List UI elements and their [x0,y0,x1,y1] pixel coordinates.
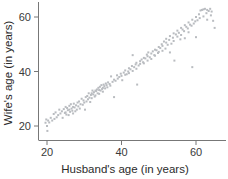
data-point [178,32,180,34]
data-point [73,103,75,105]
data-point [50,117,52,119]
data-point [65,111,67,113]
x-tick-label-60: 60 [190,146,202,158]
data-point [195,16,197,18]
data-point [214,27,216,29]
data-point [88,97,90,99]
data-point [170,43,172,45]
data-point [191,66,193,68]
x-axis-title: Husband's age (in years) [61,163,189,175]
data-point [61,110,63,112]
data-point [115,80,117,82]
data-point [172,37,174,39]
data-point [120,73,122,75]
data-point [147,60,149,62]
data-point [83,99,85,101]
data-point [164,48,166,50]
data-point [112,81,114,83]
data-point [165,38,167,40]
data-point [94,94,96,96]
data-point [161,50,163,52]
data-point [71,110,73,112]
data-point [116,74,118,76]
data-point [83,102,85,104]
data-point [195,36,197,38]
data-point [46,125,48,127]
data-point [176,36,178,38]
data-point [58,109,60,111]
data-point [77,105,79,107]
data-point [143,62,145,64]
data-point [187,27,189,29]
data-point [156,49,158,51]
data-point [136,84,138,86]
data-point [86,95,88,97]
data-point [55,111,57,113]
data-point [202,15,204,17]
data-point [161,45,163,47]
data-point [92,93,94,95]
data-point [169,51,171,53]
data-point [118,76,120,78]
data-point [80,103,82,105]
data-point [135,62,137,64]
data-point [188,21,190,23]
data-point [75,104,77,106]
data-point [141,59,143,61]
data-point [123,72,125,74]
data-point [144,57,146,59]
data-point [205,12,207,14]
data-point [85,100,87,102]
data-point [199,17,201,19]
data-point [69,111,71,113]
data-point [103,85,105,87]
data-point [173,32,175,34]
data-point [72,112,74,114]
data-point [68,114,70,116]
data-point [129,68,131,70]
data-point [183,30,185,32]
data-point [66,107,68,109]
data-point [191,25,193,27]
data-point [106,86,108,88]
data-point [45,118,47,120]
data-point [131,65,133,67]
data-point [56,116,58,118]
y-tick-label-20: 20 [19,120,31,132]
data-point [150,53,152,55]
data-point [165,42,167,44]
data-point [163,41,165,43]
data-point [147,55,149,57]
data-point [59,112,61,114]
data-point [79,108,81,110]
scatter-plot-svg: 20 40 60 20 40 60 Husband's age (in year… [0,0,228,179]
data-point [211,11,213,13]
data-point [212,20,214,22]
data-point [132,54,134,56]
data-point [76,109,78,111]
data-point [175,33,177,35]
data-point [82,104,84,106]
data-point [84,109,86,111]
data-point [204,8,206,10]
data-point [188,31,190,33]
data-point [110,75,112,77]
data-point [139,63,141,65]
data-point [152,50,154,52]
data-point [196,19,198,21]
data-point [78,100,80,102]
data-point [176,30,178,32]
data-point [193,23,195,25]
data-point [206,19,208,21]
data-point [46,130,48,132]
data-point [45,122,47,124]
data-point [132,70,134,72]
data-point [158,51,160,53]
data-point [154,55,156,57]
data-point [70,103,72,105]
data-point [169,35,171,37]
data-point [168,39,170,41]
data-point [135,68,137,70]
data-point [208,10,210,12]
data-point [180,34,182,36]
